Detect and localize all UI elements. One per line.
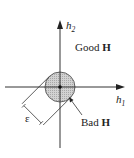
- target-function-dot: [58, 85, 62, 89]
- bad-h-pointer-icon: [69, 97, 74, 103]
- hypothesis-space-diagram: h2 Good H h1 Bad H ε: [0, 0, 134, 158]
- h1-axis-label: h1: [116, 93, 125, 108]
- epsilon-label: ε: [25, 112, 30, 124]
- good-h-label: Good H: [75, 41, 111, 53]
- h2-arrow-icon: [57, 20, 63, 29]
- bad-h-leader-line: [71, 100, 82, 115]
- h1-arrow-icon: [116, 84, 125, 90]
- bad-h-label: Bad H: [81, 116, 110, 128]
- h2-axis-label: h2: [66, 19, 76, 34]
